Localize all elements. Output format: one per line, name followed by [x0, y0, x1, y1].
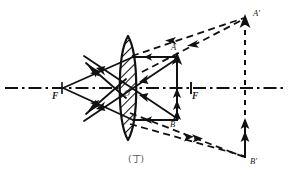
label-image-top-A-prime: A'	[253, 9, 260, 18]
figure-caption: (丁)	[128, 155, 144, 164]
dashed-ray-bundle-lower	[130, 113, 244, 157]
optics-ray-diagram-figure: F F O A B A' B' (丁)	[0, 0, 289, 181]
ray-diagram-canvas	[0, 0, 289, 181]
label-focus-right: F	[192, 92, 198, 102]
virtual-ray-upper-2	[142, 19, 244, 72]
label-object-bottom-B: B	[170, 120, 175, 129]
dashed-ray-bundle-upper	[132, 18, 244, 72]
label-lens-center: O	[124, 90, 130, 98]
label-focus-left: F	[52, 92, 58, 102]
virtual-ray-upper-1	[132, 18, 244, 56]
label-image-bottom-B-prime: B'	[250, 157, 257, 166]
object-arrow-AB	[172, 52, 182, 121]
virtual-image-arrow	[240, 14, 251, 158]
ray-A-parallel	[133, 53, 177, 61]
label-object-top-A: A	[171, 43, 176, 52]
